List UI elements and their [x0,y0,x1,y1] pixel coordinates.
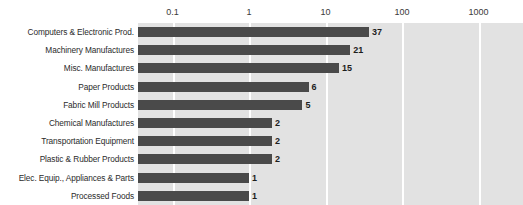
bar-value-label: 5 [305,99,310,111]
bar [138,45,350,55]
category-label: Misc. Manufactures [0,59,134,77]
bar-row: Paper Products6 [0,78,523,96]
bar-value-label: 1 [252,172,257,184]
category-label: Machinery Manufactures [0,41,134,59]
category-label: Chemical Manufactures [0,114,134,132]
bar-row: Plastic & Rubber Products2 [0,150,523,168]
category-label: Paper Products [0,78,134,96]
bar-value-label: 37 [372,26,382,38]
x-tick-label-100: 100 [394,7,409,18]
x-tick-label-1000: 1000 [468,7,488,18]
bar [138,100,302,110]
x-tick-label-10: 10 [320,7,330,18]
bar [138,63,339,73]
category-label: Transportation Equipment [0,132,134,150]
bar [138,82,309,92]
bar-row: Elec. Equip., Appliances & Parts1 [0,169,523,187]
bar-value-label: 2 [275,135,280,147]
bar [138,136,272,146]
bar [138,154,272,164]
bar-value-label: 1 [252,190,257,202]
log-bar-chart: 0.1110100100010000 Computers & Electroni… [0,0,523,205]
bar [138,27,369,37]
bar-row: Misc. Manufactures15 [0,59,523,77]
bar-row: Machinery Manufactures21 [0,41,523,59]
bar [138,173,249,183]
bar-row: Chemical Manufactures2 [0,114,523,132]
bar-value-label: 6 [312,81,317,93]
category-label: Processed Foods [0,187,134,205]
category-label: Elec. Equip., Appliances & Parts [0,169,134,187]
bar-row: Computers & Electronic Prod.37 [0,23,523,41]
bar-value-label: 21 [353,44,363,56]
bar-value-label: 2 [275,153,280,165]
x-axis-tick-labels: 0.1110100100010000 [0,7,523,21]
x-tick-label-0.1: 0.1 [166,7,179,18]
category-label: Computers & Electronic Prod. [0,23,134,41]
category-label: Fabric Mill Products [0,96,134,114]
bar-value-label: 2 [275,117,280,129]
bar-row: Transportation Equipment2 [0,132,523,150]
x-tick-label-1: 1 [246,7,251,18]
bar-value-label: 15 [342,62,352,74]
category-label: Plastic & Rubber Products [0,150,134,168]
bar-row: Fabric Mill Products5 [0,96,523,114]
bar [138,118,272,128]
bar-rows: Computers & Electronic Prod.37Machinery … [0,23,523,205]
bar-row: Processed Foods1 [0,187,523,205]
bar [138,191,249,201]
cut-off-title [0,0,300,2]
